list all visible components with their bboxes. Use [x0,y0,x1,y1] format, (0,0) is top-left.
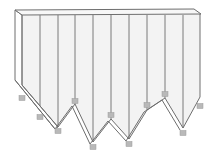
vertex-marker [108,113,114,118]
vertex-marker [197,104,203,109]
vertex-marker [72,99,78,104]
vertex-marker [144,103,150,108]
folded-sheet-diagram [0,0,215,158]
top-face [15,9,201,15]
vertex-marker [19,96,25,101]
vertex-marker [126,142,132,147]
vertex-marker [55,129,61,134]
vertex-marker [90,145,96,150]
vertex-marker [180,131,186,136]
vertex-marker [37,115,43,120]
vertex-marker [162,92,168,97]
